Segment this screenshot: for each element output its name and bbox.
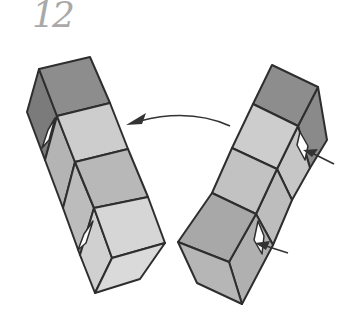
origami-diagram [0,0,351,321]
right-column [178,65,327,304]
left-column [27,57,165,293]
curved-arrow-head-icon [126,113,146,125]
curved-rotate-arrow [140,116,230,126]
